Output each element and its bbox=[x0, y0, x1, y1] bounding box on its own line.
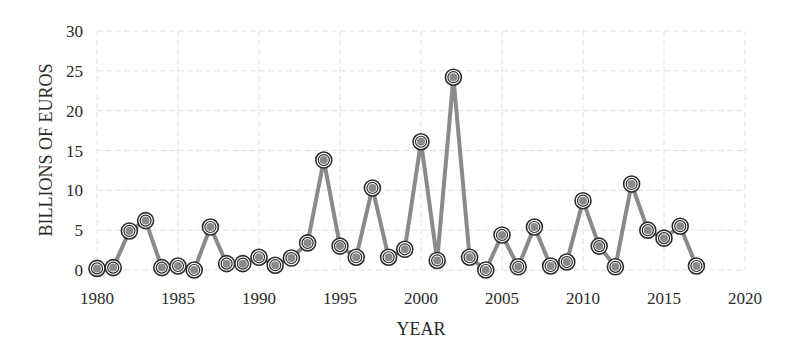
y-tick-label: 5 bbox=[75, 221, 84, 240]
y-tick-label: 15 bbox=[66, 142, 83, 161]
data-point-marker bbox=[624, 176, 640, 192]
x-axis-ticks: 198019851990199520002005201020152020 bbox=[80, 289, 762, 308]
data-point-marker bbox=[316, 152, 332, 168]
data-point-marker bbox=[543, 258, 559, 274]
x-tick-label: 1995 bbox=[323, 289, 357, 308]
data-point-marker bbox=[364, 180, 380, 196]
data-point-marker bbox=[105, 260, 121, 276]
data-point-marker bbox=[640, 222, 656, 238]
y-axis-ticks: 051015202530 bbox=[66, 22, 83, 280]
data-point-marker bbox=[332, 238, 348, 254]
data-point-marker bbox=[381, 249, 397, 265]
x-tick-label: 2015 bbox=[647, 289, 681, 308]
data-point-marker bbox=[283, 250, 299, 266]
data-point-marker bbox=[575, 193, 591, 209]
data-point-marker bbox=[186, 262, 202, 278]
data-point-marker bbox=[397, 241, 413, 257]
y-axis-label: BILLIONS OF EUROS bbox=[36, 63, 56, 236]
data-point-marker bbox=[688, 258, 704, 274]
data-point-marker bbox=[121, 223, 137, 239]
data-point-marker bbox=[429, 252, 445, 268]
x-tick-label: 2020 bbox=[728, 289, 762, 308]
data-point-marker bbox=[559, 254, 575, 270]
data-point-marker bbox=[462, 249, 478, 265]
data-point-marker bbox=[510, 259, 526, 275]
line-chart: 051015202530 198019851990199520002005201… bbox=[0, 0, 797, 354]
data-point-marker bbox=[202, 219, 218, 235]
y-tick-label: 0 bbox=[75, 261, 84, 280]
data-point-marker bbox=[235, 256, 251, 272]
y-tick-label: 30 bbox=[66, 22, 83, 41]
data-series-line bbox=[97, 77, 696, 270]
data-point-marker bbox=[607, 259, 623, 275]
data-point-marker bbox=[251, 249, 267, 265]
data-point-marker bbox=[267, 257, 283, 273]
data-point-marker bbox=[154, 260, 170, 276]
data-point-marker bbox=[300, 235, 316, 251]
data-point-marker bbox=[526, 219, 542, 235]
data-point-marker bbox=[478, 262, 494, 278]
data-point-marker bbox=[494, 227, 510, 243]
x-tick-label: 2010 bbox=[566, 289, 600, 308]
data-points bbox=[89, 69, 704, 278]
x-tick-label: 1980 bbox=[80, 289, 114, 308]
data-point-marker bbox=[138, 213, 154, 229]
data-point-marker bbox=[591, 238, 607, 254]
data-point-marker bbox=[348, 249, 364, 265]
y-tick-label: 25 bbox=[66, 62, 83, 81]
data-point-marker bbox=[656, 230, 672, 246]
data-point-marker bbox=[413, 134, 429, 150]
x-tick-label: 2000 bbox=[404, 289, 438, 308]
x-axis-label: YEAR bbox=[397, 319, 446, 339]
x-tick-label: 1985 bbox=[161, 289, 195, 308]
data-point-marker bbox=[170, 258, 186, 274]
data-point-marker bbox=[89, 260, 105, 276]
x-tick-label: 2005 bbox=[485, 289, 519, 308]
y-tick-label: 20 bbox=[66, 102, 83, 121]
y-tick-label: 10 bbox=[66, 181, 83, 200]
data-point-marker bbox=[219, 256, 235, 272]
x-tick-label: 1990 bbox=[242, 289, 276, 308]
data-point-marker bbox=[445, 69, 461, 85]
data-point-marker bbox=[672, 218, 688, 234]
